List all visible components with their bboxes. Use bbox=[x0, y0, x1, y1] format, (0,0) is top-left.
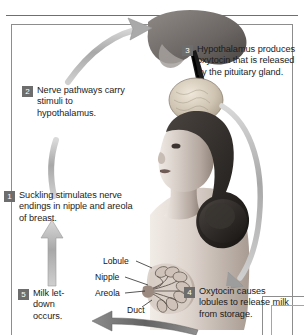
step-text-1: Suckling stimulates nerve endings in nip… bbox=[19, 190, 136, 224]
step-text-2: Nerve pathways carry stimuli to hypothal… bbox=[37, 85, 130, 119]
anatomy-label-nipple: Nipple bbox=[95, 272, 119, 282]
step-number-badge-1: 1 bbox=[4, 191, 15, 202]
figure-milk-letdown-reflex: 1 Suckling stimulates nerve endings in n… bbox=[0, 0, 304, 335]
anatomy-label-lobule: Lobule bbox=[103, 256, 129, 266]
step-callout-5: 5 Milk let-down occurs. bbox=[18, 288, 78, 322]
step-number-badge-2: 2 bbox=[22, 86, 33, 97]
step-text-4: Oxytocin causes lobules to release milk … bbox=[199, 286, 296, 320]
anatomy-label-duct: Duct bbox=[127, 305, 145, 315]
step-callout-4: 4 Oxytocin causes lobules to release mil… bbox=[184, 286, 296, 320]
top-divider-rule bbox=[6, 15, 298, 16]
step-callout-2: 2 Nerve pathways carry stimuli to hypoth… bbox=[22, 85, 130, 119]
step-number-badge-5: 5 bbox=[18, 289, 29, 300]
step-text-5: Milk let-down occurs. bbox=[33, 288, 78, 322]
step-text-3: Hypothalamus produces oxytocin that is r… bbox=[197, 44, 300, 78]
step-callout-1: 1 Suckling stimulates nerve endings in n… bbox=[4, 190, 136, 224]
step-callout-3: 3 Hypothalamus produces oxytocin that is… bbox=[182, 44, 300, 78]
step-number-badge-3: 3 bbox=[182, 45, 193, 56]
step-number-badge-4: 4 bbox=[184, 287, 195, 298]
anatomy-label-areola: Areola bbox=[95, 288, 120, 298]
